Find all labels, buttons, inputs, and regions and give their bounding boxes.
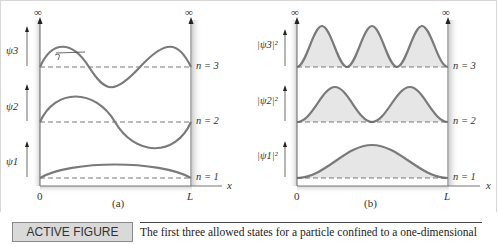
x-end-label-b: L [444, 190, 450, 202]
active-figure-tag[interactable]: ACTIVE FIGURE 28.23 [12, 222, 133, 242]
panel-b [283, 17, 480, 194]
y-label-psi1-squared: |ψ1|² [257, 150, 278, 161]
caption-rule [140, 222, 482, 223]
wall-infinity-left-a: ∞ [34, 6, 42, 18]
x-axis-label-b: x [486, 179, 491, 191]
level-label-n2-b: n = 2 [453, 115, 476, 126]
figure-caption: ACTIVE FIGURE 28.23 The first three allo… [0, 222, 498, 244]
level-label-n3-b: n = 3 [453, 60, 476, 71]
level-label-n3-a: n = 3 [196, 60, 219, 71]
level-label-n1-b: n = 1 [453, 171, 476, 182]
y-label-psi2-squared: |ψ2|² [257, 95, 278, 106]
active-figure-prefix: ACTIVE FIGURE [26, 225, 118, 239]
y-label-psi1: ψ1 [6, 155, 18, 167]
wall-infinity-right-a: ∞ [185, 6, 193, 18]
figure-graphics [0, 0, 498, 212]
panel-label-a: (a) [112, 197, 124, 209]
wall-infinity-left-b: ∞ [291, 6, 299, 18]
wall-infinity-right-b: ∞ [442, 6, 450, 18]
level-label-n1-a: n = 1 [196, 171, 219, 182]
y-label-psi2: ψ2 [6, 100, 18, 112]
y-label-psi3: ψ3 [6, 44, 18, 56]
panel-label-b: (b) [364, 197, 377, 209]
panel-a [25, 17, 222, 194]
x-origin-label-b: 0 [294, 190, 300, 202]
x-origin-label-a: 0 [37, 190, 43, 202]
caption-text: The first three allowed states for a par… [140, 226, 477, 238]
y-label-psi3-squared: |ψ3|² [257, 39, 278, 50]
x-axis-label-a: x [227, 179, 232, 191]
level-label-n2-a: n = 2 [196, 115, 219, 126]
x-end-label-a: L [187, 190, 193, 202]
